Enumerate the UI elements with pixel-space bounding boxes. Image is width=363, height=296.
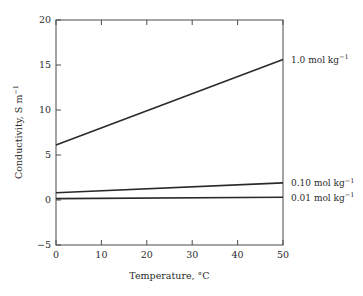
- y-tick-label: 15: [39, 59, 51, 70]
- series-label-0: 1.0 mol kg−1: [291, 53, 349, 65]
- data-series-group: [56, 60, 283, 199]
- series-label-2: 0.01 mol kg−1: [291, 191, 354, 203]
- data-line-series-0: [56, 60, 283, 146]
- chart-canvas: −505101520 01020304050 1.0 mol kg−10.10 …: [0, 0, 363, 296]
- y-tick-label: 20: [39, 14, 51, 25]
- y-axis-tick-labels: −505101520: [37, 14, 51, 250]
- x-tick-label: 0: [53, 249, 59, 260]
- x-axis-tick-labels: 01020304050: [53, 249, 289, 260]
- series-label-text: 1.0 mol kg: [291, 55, 339, 65]
- y-axis-title: Conductivity, S m−1: [12, 85, 24, 179]
- y-axis-title-superscript: −1: [12, 85, 20, 95]
- conductivity-vs-temperature-chart: −505101520 01020304050 1.0 mol kg−10.10 …: [0, 0, 363, 296]
- series-label-text: 0.10 mol kg: [291, 178, 345, 188]
- data-line-series-2: [56, 197, 283, 198]
- x-axis-title: Temperature, °C: [129, 270, 209, 281]
- y-tick-label: 10: [39, 104, 51, 115]
- y-axis-title-main: Conductivity, S m: [13, 95, 24, 179]
- series-label-text: 0.01 mol kg: [291, 193, 345, 203]
- x-tick-label: 50: [277, 249, 289, 260]
- y-tick-label: 0: [45, 194, 51, 205]
- x-tick-label: 10: [95, 249, 107, 260]
- series-label-1: 0.10 mol kg−1: [291, 177, 354, 189]
- series-label-superscript: −1: [339, 53, 349, 61]
- y-axis-tick-marks: [56, 20, 61, 245]
- y-tick-label: 5: [45, 149, 51, 160]
- y-tick-label: −5: [37, 239, 51, 250]
- data-line-series-1: [56, 183, 283, 193]
- x-tick-label: 40: [232, 249, 244, 260]
- x-tick-label: 20: [141, 249, 153, 260]
- x-tick-label: 30: [186, 249, 198, 260]
- series-label-superscript: −1: [345, 177, 355, 185]
- series-inline-labels: 1.0 mol kg−10.10 mol kg−10.01 mol kg−1: [291, 53, 354, 202]
- series-label-superscript: −1: [345, 191, 355, 199]
